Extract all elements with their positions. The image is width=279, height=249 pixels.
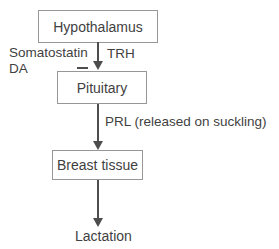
arrow-down-icon (93, 141, 103, 150)
label-trh: TRH (107, 46, 135, 61)
node-breast-tissue-label: Breast tissue (57, 157, 138, 173)
label-lactation: Lactation (75, 228, 132, 244)
minus-icon (77, 67, 88, 69)
arrow-down-icon (93, 218, 103, 227)
prolactin-pathway-diagram: Hypothalamus Pituitary Breast tissue Som… (0, 0, 279, 249)
node-pituitary-label: Pituitary (77, 80, 128, 96)
label-prl: PRL (released on suckling) (105, 114, 267, 129)
node-breast-tissue: Breast tissue (52, 150, 143, 180)
node-hypothalamus: Hypothalamus (38, 10, 158, 43)
node-pituitary: Pituitary (57, 71, 147, 104)
node-hypothalamus-label: Hypothalamus (53, 19, 143, 35)
label-da: DA (9, 61, 28, 76)
arrow-down-icon (97, 180, 99, 219)
arrow-down-icon (97, 104, 99, 142)
arrow-down-icon (93, 61, 103, 70)
label-somatostatin: Somatostatin (9, 45, 88, 60)
arrow-down-icon (97, 42, 99, 63)
